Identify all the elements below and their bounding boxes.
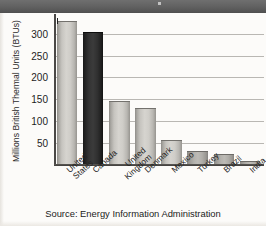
scan-speck xyxy=(158,2,161,5)
scan-artifact-band xyxy=(0,0,266,13)
y-axis-line xyxy=(54,14,56,166)
plot-area xyxy=(55,14,264,165)
x-axis-category-labels: UnitedStatesCanadaUnitedKingdomDenmarkMe… xyxy=(0,166,266,210)
bar-united-states xyxy=(57,21,78,165)
chart-figure: Millions British Thermal Units (BTUs) 50… xyxy=(0,0,266,226)
bar-canada xyxy=(83,32,104,165)
y-axis-tick-marks xyxy=(14,14,59,165)
source-note: Source: Energy Information Administratio… xyxy=(0,208,266,219)
scan-artifact-nub xyxy=(57,18,59,24)
paper-edge-bottom xyxy=(0,221,266,226)
